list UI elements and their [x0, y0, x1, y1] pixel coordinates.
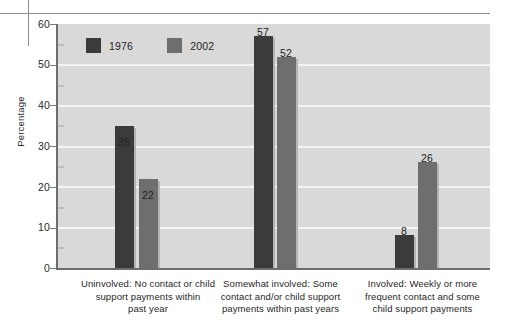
y-tick-label-50: 50	[6, 58, 50, 70]
y-tick-label-30: 30	[6, 140, 50, 152]
top-horizontal-rule	[0, 13, 490, 14]
y-minor-tick-5	[58, 247, 64, 249]
y-minor-tick-35	[58, 125, 64, 127]
category-label-involved: Involved: Weekly or more frequent contac…	[330, 278, 513, 316]
legend-entry-2002: 2002	[167, 38, 214, 53]
legend-swatch-1976-icon	[86, 38, 101, 53]
legend-swatch-2002-icon	[167, 38, 182, 53]
bar-value-1976-somewhat-involved: 57	[248, 26, 278, 38]
bar-2002-involved	[418, 162, 437, 268]
bar-2002-somewhat-involved	[277, 57, 296, 268]
bar-value-2002-somewhat-involved: 52	[271, 47, 301, 59]
y-axis-title: Percentage	[15, 62, 26, 182]
legend: 1976 2002	[86, 38, 214, 53]
legend-entry-1976: 1976	[86, 38, 133, 53]
bar-value-2002-uninvolved: 22	[133, 189, 163, 201]
y-minor-tick-15	[58, 207, 64, 209]
y-tick-label-20: 20	[6, 181, 50, 193]
bar-1976-involved	[395, 235, 414, 268]
y-tick-label-60: 60	[6, 18, 50, 30]
bar-chart: 60 50 40 30 20 10 0 Percentage 1	[0, 0, 513, 329]
legend-label-2002: 2002	[190, 40, 214, 52]
y-minor-tick-45	[58, 85, 64, 87]
plot-area: 1976 2002 35 22 57 52 8 26	[58, 24, 490, 268]
bar-value-1976-uninvolved: 35	[109, 136, 139, 148]
category-label-involved-line2: frequent contact and some	[330, 291, 513, 304]
y-tick-label-0: 0	[6, 262, 50, 274]
bar-1976-somewhat-involved	[254, 36, 273, 268]
y-minor-tick-25	[58, 166, 64, 168]
legend-label-1976: 1976	[109, 40, 133, 52]
y-tick-label-40: 40	[6, 99, 50, 111]
bar-value-1976-involved: 8	[389, 225, 419, 237]
category-label-involved-line1: Involved: Weekly or more	[330, 278, 513, 291]
y-minor-tick-55	[58, 44, 64, 46]
bar-value-2002-involved: 26	[412, 152, 442, 164]
x-axis-line	[58, 268, 490, 270]
x-axis-category-labels: Uninvolved: No contact or child support …	[58, 274, 490, 324]
category-label-involved-line3: child support payments	[330, 303, 513, 316]
y-tick-label-10: 10	[6, 221, 50, 233]
